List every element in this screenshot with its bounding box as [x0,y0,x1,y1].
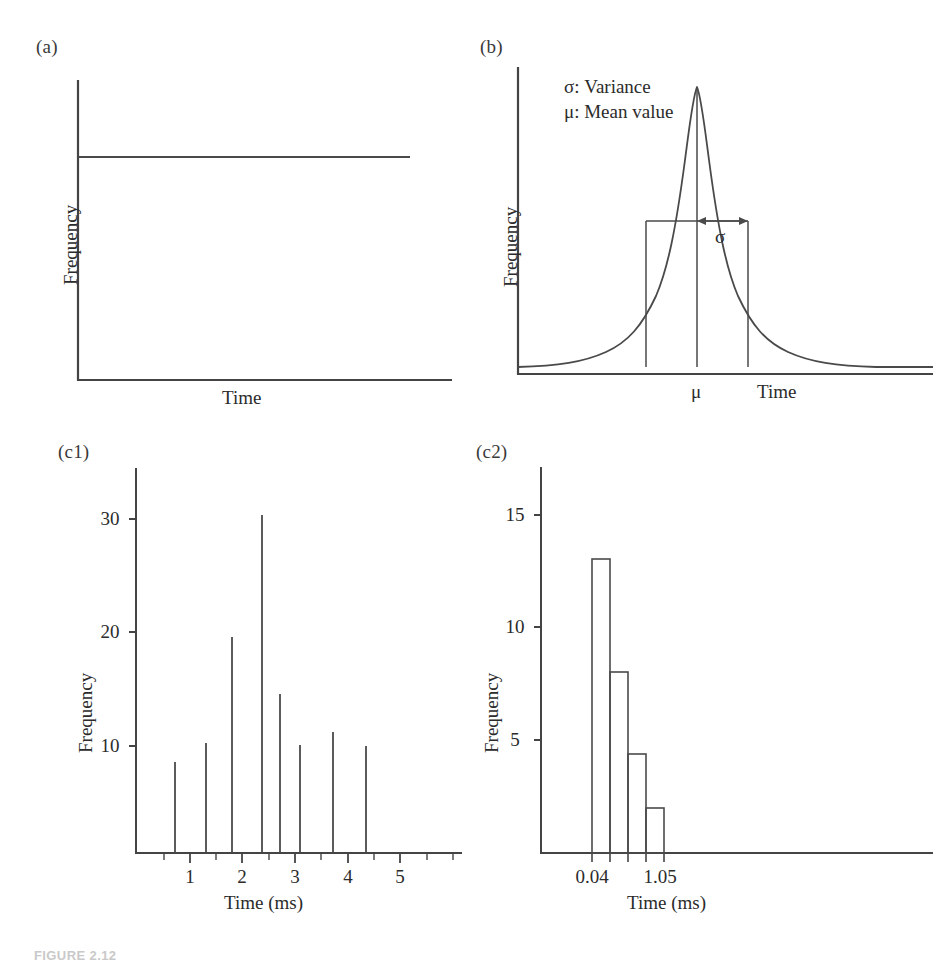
panel-c1-ytick-10: 10 [93,735,127,757]
panel-c2-bars [592,559,664,853]
panel-c1-xtick-5: 5 [388,866,412,888]
panel-b-legend-sigma: σ: Variance [564,74,651,99]
panel-c1-x-axis-label: Time (ms) [224,892,303,914]
panel-c2-x-axis-label: Time (ms) [627,892,706,914]
panel-a: (a) Frequency Time [0,0,466,420]
histogram-bar-1 [592,559,610,853]
panel-c1-xtick-3: 3 [283,866,307,888]
panel-b-sigma-arrow [697,217,748,225]
panel-c1-ytick-30: 30 [93,508,127,530]
panel-c1-ytick-20: 20 [93,621,127,643]
panel-c1-xtick-1: 1 [178,866,202,888]
panel-c2: (c2) 15 10 5 0.04 1.05 Fre [466,420,933,920]
figure-caption: FIGURE 2.12 [34,948,116,960]
panel-b-sigma-label: σ [715,226,725,248]
panel-c1: (c1) [0,420,466,920]
panel-b-x-axis-label: Time [757,381,796,403]
panel-c2-y-ticks [534,515,541,740]
panel-c1-xtick-2: 2 [230,866,254,888]
panel-c1-plot [0,420,466,920]
panel-c2-ytick-10: 10 [498,616,532,638]
histogram-bar-4 [646,808,664,853]
panel-c2-ytick-15: 15 [498,504,532,526]
panel-b-gaussian-curve [518,87,933,367]
panel-b-plot [466,0,933,420]
panel-b-y-axis-label: Frequency [500,207,522,287]
panel-c2-ytick-5: 5 [498,729,532,751]
panel-b-legend-mu: μ: Mean value [564,99,673,124]
histogram-bar-2 [610,672,628,853]
histogram-bar-3 [628,754,646,853]
panel-c2-plot [466,420,933,920]
panel-b: (b) σ: Variance μ: Mean value σ μ Freque… [466,0,933,420]
panel-a-x-axis-label: Time [222,387,261,409]
panel-c2-x-ticks [592,853,664,862]
panel-c1-y-ticks [129,519,136,746]
panel-c1-x-ticks [164,853,453,863]
panel-b-mu-tick-label: μ [691,381,701,403]
panel-c2-xtick-004: 0.04 [567,866,617,888]
panel-c1-xtick-4: 4 [336,866,360,888]
panel-a-y-axis-label: Frequency [60,205,82,285]
panel-c2-xtick-105: 1.05 [635,866,685,888]
panel-c1-spikes [175,515,366,853]
panel-c2-y-axis-label: Frequency [481,673,503,753]
panel-c1-y-axis-label: Frequency [75,673,97,753]
